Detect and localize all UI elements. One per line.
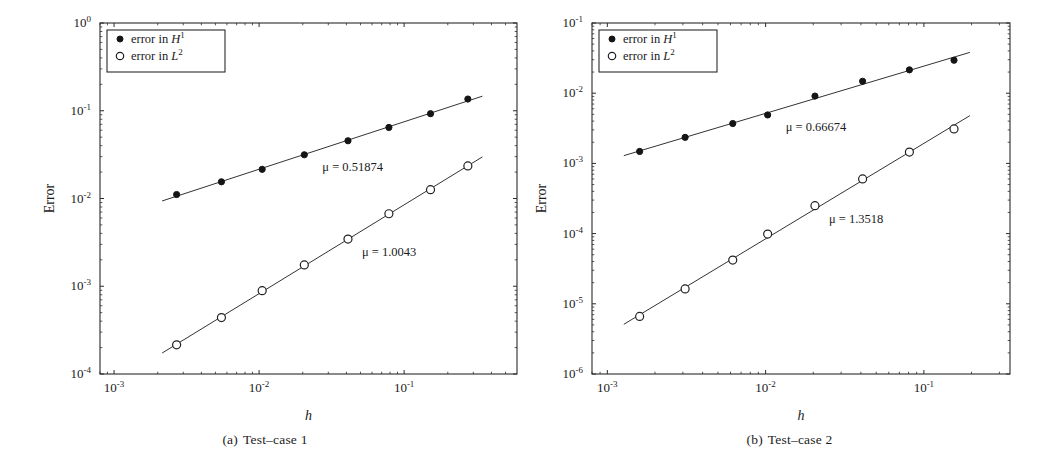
legend-label-l2: error in L2 [131, 47, 183, 63]
x-tick-label: 10-3 [104, 379, 125, 395]
data-point-h1 [174, 191, 180, 197]
y-tick-label: 10-6 [563, 365, 584, 381]
fit-line [162, 157, 482, 353]
slope-annotation-l2: μ = 1.0043 [362, 245, 416, 259]
x-tick-label: 10-2 [755, 379, 776, 395]
data-point-l2 [173, 341, 181, 349]
slope-annotation-h1: μ = 0.66674 [786, 120, 847, 134]
data-point-l2 [464, 162, 472, 170]
data-point-h1 [951, 57, 957, 63]
data-point-l2 [636, 312, 644, 320]
y-tick-label: 10-1 [71, 102, 92, 118]
y-tick-label: 10-4 [71, 365, 92, 381]
data-point-l2 [258, 287, 266, 295]
y-axis-label: Error [42, 183, 57, 213]
plot-area-test-case-1: 10-310-210-110-410-310-210-1100hErrorμ =… [0, 0, 530, 420]
data-point-h1 [386, 124, 392, 130]
y-tick-label: 10-4 [563, 225, 584, 241]
data-point-h1 [682, 134, 688, 140]
x-axis-label: h [305, 408, 312, 420]
y-tick-label: 10-2 [563, 84, 584, 100]
y-axis-label: Error [534, 183, 549, 213]
data-point-h1 [730, 120, 736, 126]
panel-test-case-1: 10-310-210-110-410-310-210-1100hErrorμ =… [0, 0, 530, 466]
data-point-h1 [637, 148, 643, 154]
data-point-l2 [905, 148, 913, 156]
legend-label-h1: error in H1 [623, 30, 677, 46]
fit-line [624, 116, 970, 325]
legend-label-l2: error in L2 [623, 47, 675, 63]
data-point-h1 [218, 179, 224, 185]
caption-tag-b: (b) [747, 432, 763, 447]
panel-caption-b: (b)Test–case 2 [530, 432, 1049, 448]
panel-caption-a: (a)Test–case 1 [0, 432, 530, 448]
fit-line [162, 96, 482, 201]
slope-annotation-l2: μ = 1.3518 [829, 212, 883, 226]
legend-label-h1: error in H1 [131, 30, 185, 46]
data-point-h1 [427, 111, 433, 117]
x-tick-label: 10-2 [249, 379, 270, 395]
data-point-h1 [345, 138, 351, 144]
data-point-l2 [764, 230, 772, 238]
data-point-h1 [812, 93, 818, 99]
caption-text-a: Test–case 1 [243, 432, 308, 447]
data-point-h1 [301, 152, 307, 158]
data-point-l2 [729, 256, 737, 264]
figure-root: 10-310-210-110-410-310-210-1100hErrorμ =… [0, 0, 1049, 466]
y-tick-label: 100 [74, 14, 92, 30]
data-point-l2 [950, 125, 958, 133]
data-point-h1 [465, 96, 471, 102]
data-point-l2 [427, 186, 435, 194]
caption-tag-a: (a) [222, 432, 238, 447]
data-point-h1 [259, 166, 265, 172]
y-tick-label: 10-1 [563, 14, 584, 30]
slope-annotation-h1: μ = 0.51874 [322, 160, 383, 174]
x-tick-label: 10-1 [394, 379, 415, 395]
legend-marker-l2 [608, 52, 615, 59]
data-point-h1 [860, 78, 866, 84]
legend-marker-h1 [117, 36, 123, 42]
legend-marker-l2 [116, 52, 123, 59]
y-tick-label: 10-5 [563, 295, 584, 311]
data-point-l2 [859, 175, 867, 183]
data-point-l2 [681, 285, 689, 293]
data-point-l2 [811, 202, 819, 210]
caption-text-b: Test–case 2 [768, 432, 833, 447]
y-tick-label: 10-3 [71, 277, 92, 293]
plot-area-test-case-2: 10-310-210-110-610-510-410-310-210-1hErr… [530, 0, 1049, 420]
legend-marker-h1 [609, 36, 615, 42]
data-point-l2 [217, 314, 225, 322]
x-axis-label: h [798, 408, 805, 420]
axes-frame [592, 23, 1010, 374]
y-tick-label: 10-2 [71, 190, 92, 206]
x-tick-label: 10-3 [597, 379, 618, 395]
x-tick-label: 10-1 [914, 379, 935, 395]
y-tick-label: 10-3 [563, 154, 584, 170]
data-point-l2 [300, 261, 308, 269]
data-point-l2 [385, 210, 393, 218]
data-point-l2 [344, 235, 352, 243]
data-point-h1 [765, 112, 771, 118]
axes-frame [100, 23, 517, 374]
data-point-h1 [906, 67, 912, 73]
panel-test-case-2: 10-310-210-110-610-510-410-310-210-1hErr… [530, 0, 1049, 466]
